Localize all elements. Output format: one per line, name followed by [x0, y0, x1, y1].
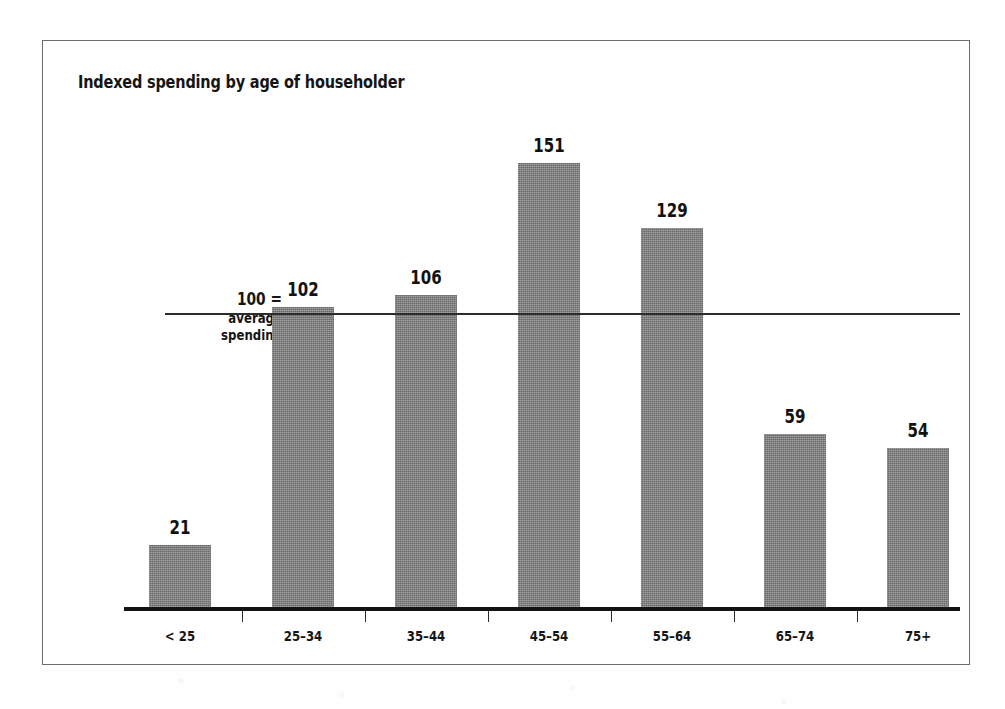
x-axis-tick [734, 611, 736, 622]
x-axis-tick [488, 611, 490, 622]
reference-line-label-value: 100 = [140, 289, 282, 310]
x-axis-category-label: 75+ [873, 628, 963, 644]
plot-area: 100 = average spending 21< 2510225–34106… [124, 100, 960, 610]
reference-line-label-spending: spending [140, 327, 282, 345]
x-axis-tick [242, 611, 244, 622]
bar-35-44 [395, 295, 457, 607]
bar-value-label: 102 [268, 278, 338, 300]
x-axis-tick [611, 611, 613, 622]
x-axis-category-label: 25–34 [258, 628, 348, 644]
bar-25-34 [272, 307, 334, 607]
bar-value-label: 59 [760, 405, 830, 427]
bar-65-74 [764, 434, 826, 607]
chart-figure: Indexed spending by age of householder 1… [0, 0, 1005, 709]
x-axis-category-label: 35–44 [381, 628, 471, 644]
bar-value-label: 151 [514, 134, 584, 156]
x-axis-tick [857, 611, 859, 622]
reference-line-100 [165, 313, 960, 315]
x-axis-baseline [124, 607, 960, 611]
bar-value-label: 106 [391, 266, 461, 288]
bar-value-label: 129 [637, 199, 707, 221]
bar-value-label: 21 [145, 516, 215, 538]
x-axis-category-label: 55–64 [627, 628, 717, 644]
page-title: Indexed spending by age of householder [78, 72, 404, 92]
bar-25 [149, 545, 211, 607]
x-axis-tick [365, 611, 367, 622]
bar-75+ [887, 448, 949, 607]
bar-value-label: 54 [883, 419, 953, 441]
bar-45-54 [518, 163, 580, 607]
bar-55-64 [641, 228, 703, 607]
x-axis-category-label: 65–74 [750, 628, 840, 644]
x-axis-category-label: < 25 [135, 628, 225, 644]
reference-line-annotation: 100 = average spending [124, 289, 282, 345]
x-axis-category-label: 45–54 [504, 628, 594, 644]
